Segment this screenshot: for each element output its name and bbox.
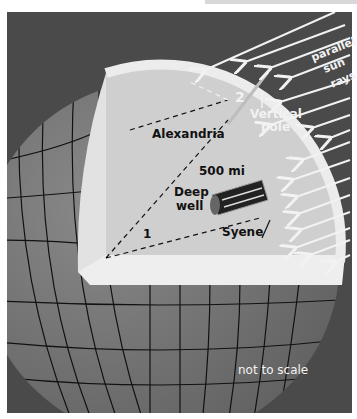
label-well-line2: well: [176, 200, 203, 212]
label-not-to-scale: not to scale: [238, 364, 308, 376]
top-edge-bar: [205, 0, 357, 4]
label-pole-line2: pole: [261, 121, 290, 133]
label-syene: Syene: [222, 226, 263, 238]
label-angle-2: 2: [235, 90, 245, 104]
label-angle-1: 1: [143, 228, 151, 240]
label-pole-line1: Vertical: [250, 108, 302, 120]
label-distance: 500 mi: [199, 165, 245, 177]
label-well-line1: Deep: [174, 186, 209, 198]
label-alexandria: Alexandria: [152, 128, 225, 140]
